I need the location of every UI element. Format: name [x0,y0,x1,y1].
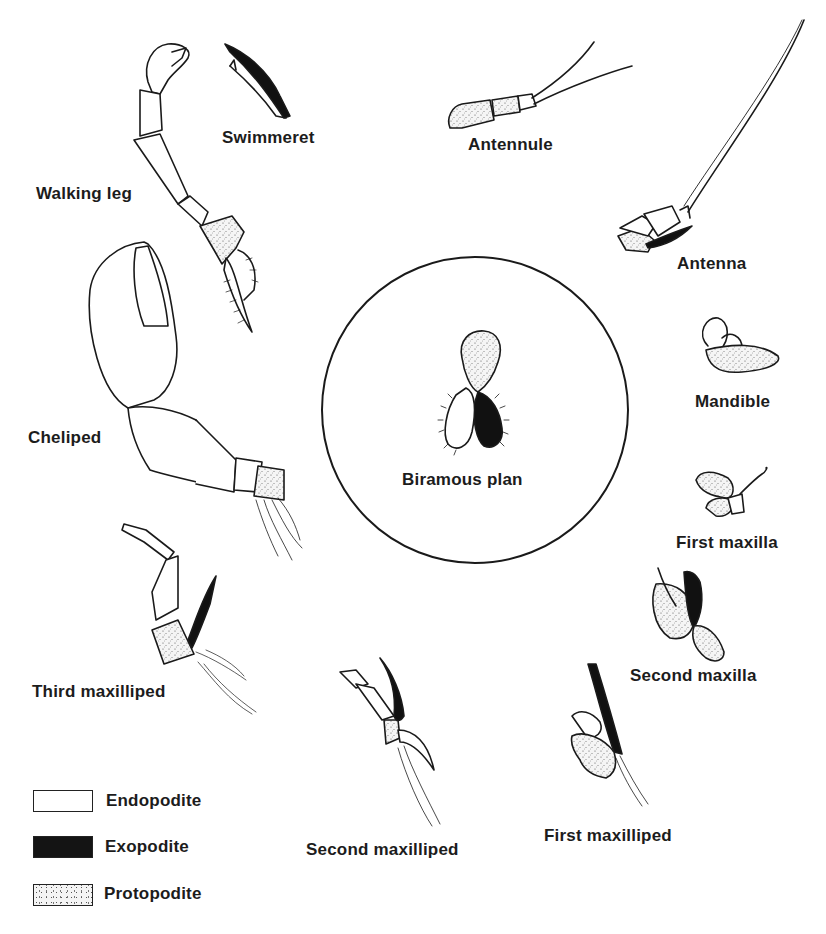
legend-swatch-protopodite [33,884,93,906]
label-swimmeret: Swimmeret [222,128,315,148]
first-maxilla-figure [696,468,767,517]
legend-label-exopodite: Exopodite [105,837,189,857]
antennule-figure [449,42,632,128]
legend-label-endopodite: Endopodite [106,791,201,811]
label-second-maxilla: Second maxilla [630,666,757,686]
appendage-diagram: Swimmeret Walking leg Antennule Antenna … [0,0,826,934]
label-first-maxilla: First maxilla [676,533,778,553]
label-third-maxilliped: Third maxilliped [32,682,166,702]
label-second-maxilliped: Second maxilliped [306,840,459,860]
label-mandible: Mandible [695,392,770,412]
cheliped-figure [89,242,302,560]
legend-swatch-endopodite [33,790,93,812]
antenna-figure [618,20,804,252]
label-first-maxilliped: First maxilliped [544,826,672,846]
legend-label-protopodite: Protopodite [104,884,202,904]
swimmeret-figure [225,44,290,118]
mandible-figure [703,318,779,372]
second-maxilliped-figure [340,658,440,826]
biramous-plan-figure [322,257,628,563]
label-walking-leg: Walking leg [36,184,132,204]
label-antennule: Antennule [468,135,553,155]
legend-swatch-exopodite [33,836,93,858]
label-biramous-plan: Biramous plan [402,470,523,490]
label-cheliped: Cheliped [28,428,101,448]
second-maxilla-figure [653,568,724,661]
label-antenna: Antenna [677,254,746,274]
